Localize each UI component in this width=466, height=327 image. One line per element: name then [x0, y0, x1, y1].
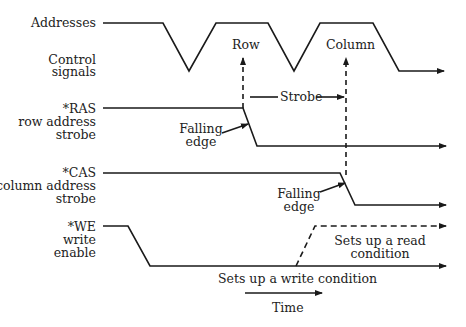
annotation-read-2: condition — [330, 248, 430, 260]
label-control-2: signals — [52, 66, 96, 78]
label-cas-3: strobe — [56, 193, 96, 205]
label-addresses: Addresses — [31, 17, 96, 29]
label-ras-3: strobe — [56, 129, 96, 141]
annotation-row: Row — [232, 39, 260, 51]
cas-falling-pointer — [320, 183, 345, 192]
label-we-3: enable — [54, 247, 96, 259]
ras-waveform — [103, 108, 446, 146]
timing-diagram: Addresses Control signals *RAS row addre… — [0, 0, 466, 327]
annotation-time: Time — [272, 302, 304, 314]
annotation-column: Column — [326, 39, 375, 51]
annotation-ras-falling-2: edge — [178, 136, 224, 148]
annotation-cas-falling-2: edge — [276, 201, 322, 213]
cas-waveform — [103, 173, 446, 205]
annotation-write: Sets up a write condition — [218, 273, 377, 285]
ras-falling-pointer — [222, 124, 248, 133]
annotation-strobe: Strobe — [280, 91, 323, 103]
addresses-waveform — [103, 23, 444, 71]
